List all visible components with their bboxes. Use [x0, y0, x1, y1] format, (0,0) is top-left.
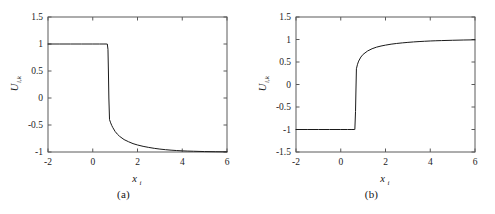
x-axis-title-subscript: i	[140, 179, 142, 185]
panel-a-caption: (a)	[0, 188, 247, 200]
data-series-line	[296, 40, 475, 130]
y-axis-title-subscript: i,k	[15, 75, 23, 83]
panel-b: -202461.510.50-0.5-1-1.5xiUi,k (b)	[248, 0, 495, 214]
y-tick-label: -1	[35, 147, 43, 157]
y-tick-label: 0	[38, 93, 43, 103]
y-tick-label: 1.5	[31, 12, 43, 22]
y-tick-label: -0.5	[276, 102, 291, 112]
x-axis-title: x	[131, 173, 137, 184]
y-tick-label: 0	[286, 80, 291, 90]
x-tick-label: 4	[428, 157, 433, 167]
x-tick-label: 2	[135, 157, 140, 167]
y-tick-label: -0.5	[28, 120, 43, 130]
x-tick-label: 6	[225, 157, 230, 167]
x-axis-title-subscript: i	[388, 179, 390, 185]
y-tick-label: 1.5	[279, 12, 291, 22]
y-axis-title-group: Ui,k	[257, 75, 271, 91]
x-tick-label: 4	[180, 157, 185, 167]
y-tick-label: 0.5	[279, 57, 291, 67]
figure-container: -202461.510.50-0.5-1xiUi,k (a) -202461.5…	[0, 0, 495, 214]
plot-a: -202461.510.50-0.5-1xiUi,k	[0, 0, 247, 185]
y-tick-label: 0.5	[31, 66, 43, 76]
y-axis-title-subscript: i,k	[263, 75, 271, 83]
x-tick-label: 6	[473, 157, 478, 167]
x-axis-title: x	[379, 173, 385, 184]
y-tick-label: 1	[286, 35, 291, 45]
x-tick-label: 2	[383, 157, 388, 167]
plot-b: -202461.510.50-0.5-1-1.5xiUi,k	[248, 0, 495, 185]
plot-frame	[296, 17, 475, 152]
data-series-line	[48, 44, 227, 152]
x-tick-label: 0	[90, 157, 95, 167]
y-tick-label: 1	[38, 39, 43, 49]
y-tick-label: -1.5	[276, 147, 291, 157]
plot-frame	[48, 17, 227, 152]
y-tick-label: -1	[283, 125, 291, 135]
panel-b-caption: (b)	[248, 188, 495, 200]
panel-a: -202461.510.50-0.5-1xiUi,k (a)	[0, 0, 247, 214]
x-tick-label: -2	[44, 157, 52, 167]
y-axis-title-group: Ui,k	[9, 75, 23, 91]
x-tick-label: -2	[292, 157, 300, 167]
x-tick-label: 0	[338, 157, 343, 167]
